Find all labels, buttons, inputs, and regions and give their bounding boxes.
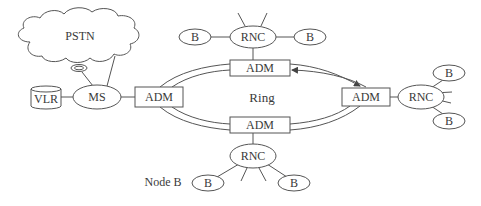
b-right-top-node: B	[433, 65, 465, 81]
adm-right-node: ADM	[342, 88, 390, 106]
rnc-top-node: RNC	[230, 26, 276, 48]
vlr-label: VLR	[34, 92, 58, 106]
pstn-label: PSTN	[65, 29, 95, 43]
adm-top-node: ADM	[230, 60, 290, 76]
b-bottom-right-label: B	[290, 176, 298, 190]
ms-pstn-link-1	[82, 72, 93, 86]
rnc-top-antenna-2	[261, 13, 267, 26]
ms-node: MS	[73, 85, 121, 109]
rnc-bottom-node: RNC	[230, 144, 276, 168]
pstn-cloud: PSTN	[18, 8, 139, 72]
b-top-right-label: B	[306, 30, 314, 44]
pstn-connector-icon	[71, 65, 87, 72]
adm-left-node: ADM	[135, 87, 183, 107]
b-top-left-node: B	[179, 29, 211, 45]
b-top-right-node: B	[294, 29, 326, 45]
rnc-bottom-label: RNC	[241, 149, 266, 163]
network-diagram: PSTN VLR MS Ring ADM AD	[0, 0, 481, 206]
adm-left-label: ADM	[145, 90, 173, 104]
ring-label: Ring	[249, 90, 275, 105]
rnc-bottom-b-right-link	[267, 164, 287, 177]
ms-pstn-link-2	[107, 56, 115, 86]
rnc-right-label: RNC	[409, 90, 434, 104]
node-b-annotation: Node B	[145, 175, 182, 189]
rnc-right-node: RNC	[398, 85, 444, 109]
ring-arrow-counterclockwise	[292, 70, 366, 87]
b-top-left-label: B	[191, 30, 199, 44]
b-bottom-right-node: B	[278, 175, 310, 191]
b-right-top-label: B	[445, 66, 453, 80]
adm-right-label: ADM	[352, 90, 380, 104]
rnc-top-label: RNC	[241, 30, 266, 44]
b-bottom-left-label: B	[204, 176, 212, 190]
rnc-top-antenna-1	[238, 13, 245, 26]
adm-bottom-node: ADM	[230, 117, 290, 133]
adm-bottom-label: ADM	[246, 118, 274, 132]
b-right-bottom-node: B	[433, 113, 465, 129]
b-right-bottom-label: B	[445, 114, 453, 128]
vlr-node: VLR	[31, 86, 61, 109]
rnc-bottom-b-left-link	[217, 164, 239, 177]
ms-label: MS	[88, 90, 105, 104]
rnc-bottom-antenna-2	[259, 168, 266, 181]
adm-top-label: ADM	[246, 61, 274, 75]
rnc-bottom-antenna-1	[241, 168, 247, 181]
b-bottom-left-node: B	[192, 175, 224, 191]
ring-arrow-clockwise	[290, 64, 360, 86]
